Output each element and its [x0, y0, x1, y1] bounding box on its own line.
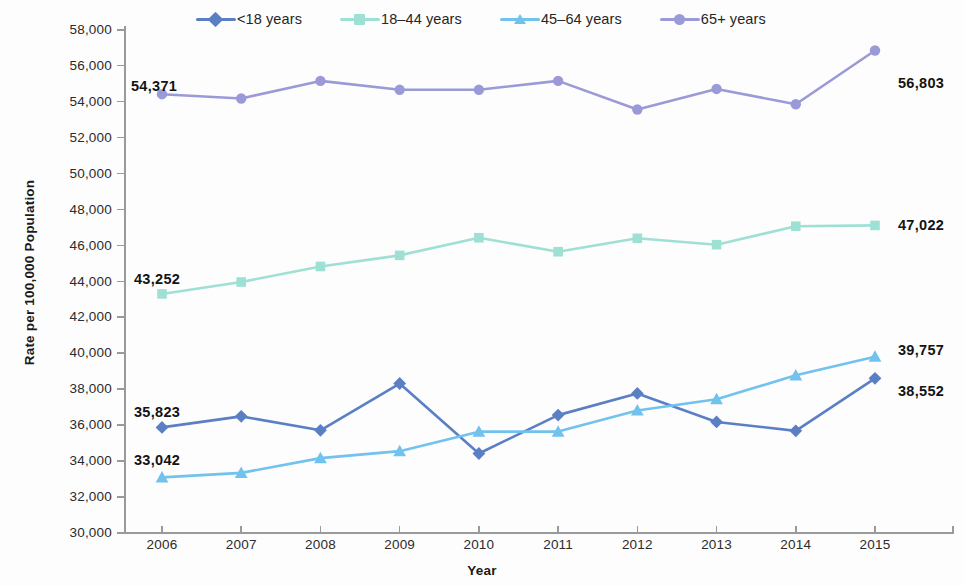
x-tick-mark [478, 526, 480, 534]
y-tick-label: 42,000 [40, 309, 112, 324]
y-tick-mark [117, 29, 125, 31]
series-start-value-label: 43,252 [134, 271, 180, 287]
y-tick-mark [117, 209, 125, 211]
y-tick-mark [117, 173, 125, 175]
y-tick-mark [117, 352, 125, 354]
legend-label-3: 45–64 years [541, 11, 622, 27]
y-tick-mark [117, 137, 125, 139]
data-point-marker [553, 76, 563, 86]
x-tick-label: 2007 [204, 537, 278, 552]
legend-swatch-square-icon [340, 12, 380, 26]
data-point-marker [789, 424, 802, 437]
y-tick-label: 44,000 [40, 273, 112, 288]
chart-legend: <18 years18–44 years45–64 years65+ years [196, 7, 836, 31]
data-point-marker [631, 387, 644, 400]
data-point-marker [393, 445, 406, 457]
legend-item-3[interactable]: 45–64 years [500, 11, 660, 27]
y-tick-label: 30,000 [40, 525, 112, 540]
data-point-marker [393, 377, 406, 390]
x-tick-mark [637, 526, 639, 534]
y-tick-mark [117, 316, 125, 318]
x-tick-mark [716, 526, 718, 534]
y-tick-label: 46,000 [40, 237, 112, 252]
y-tick-mark [117, 460, 125, 462]
series-line [162, 51, 875, 110]
data-point-marker [157, 289, 167, 299]
legend-label-4: 65+ years [701, 11, 766, 27]
y-tick-label: 48,000 [40, 201, 112, 216]
series-start-value-label: 35,823 [134, 404, 180, 420]
data-point-marker [394, 85, 404, 95]
data-point-marker [552, 409, 565, 422]
x-axis-line [124, 532, 952, 534]
data-point-marker [474, 233, 484, 243]
data-point-marker [156, 471, 169, 483]
y-tick-mark [117, 424, 125, 426]
x-tick-mark [874, 526, 876, 534]
data-point-marker [316, 262, 326, 272]
series-line [162, 357, 875, 478]
series-line [162, 378, 875, 453]
y-tick-label: 38,000 [40, 381, 112, 396]
data-point-marker [869, 350, 882, 362]
data-point-marker [712, 240, 722, 250]
x-axis-end-tick [952, 526, 954, 534]
legend-item-4[interactable]: 65+ years [660, 11, 766, 27]
data-point-marker [789, 369, 802, 381]
data-point-marker [395, 251, 405, 261]
x-tick-label: 2006 [125, 537, 199, 552]
data-point-marker [633, 234, 643, 244]
data-point-marker [472, 425, 485, 437]
legend-swatch-triangle-icon [500, 12, 540, 26]
y-tick-label: 54,000 [40, 93, 112, 108]
data-point-marker [236, 277, 246, 287]
data-point-marker [235, 410, 248, 423]
series-1 [156, 372, 882, 460]
data-point-marker [236, 93, 246, 103]
y-tick-label: 52,000 [40, 129, 112, 144]
y-tick-mark [117, 496, 125, 498]
legend-label-2: 18–44 years [381, 11, 462, 27]
data-point-marker [791, 99, 801, 109]
series-start-value-label: 33,042 [134, 452, 180, 468]
y-tick-label: 34,000 [40, 453, 112, 468]
data-point-marker [870, 45, 880, 55]
series-3 [156, 350, 882, 482]
x-tick-label: 2011 [521, 537, 595, 552]
y-tick-mark [117, 281, 125, 283]
legend-swatch-circle-icon [660, 12, 700, 26]
x-tick-label: 2015 [838, 537, 912, 552]
data-point-marker [632, 104, 642, 114]
y-tick-label: 50,000 [40, 165, 112, 180]
series-end-value-label: 47,022 [898, 217, 944, 233]
y-tick-mark [117, 245, 125, 247]
y-tick-label: 36,000 [40, 417, 112, 432]
legend-item-1[interactable]: <18 years [196, 11, 340, 27]
data-point-marker [553, 247, 563, 257]
data-point-marker [711, 84, 721, 94]
y-tick-label: 40,000 [40, 345, 112, 360]
data-point-marker [156, 421, 169, 434]
y-axis-title: Rate per 100,000 Population [22, 158, 37, 388]
series-line [162, 225, 875, 294]
x-tick-mark [557, 526, 559, 534]
data-point-marker [791, 221, 801, 231]
series-4 [157, 45, 880, 114]
data-point-marker [552, 425, 565, 437]
series-start-value-label: 54,371 [131, 78, 177, 94]
data-point-marker [710, 416, 723, 429]
legend-item-2[interactable]: 18–44 years [340, 11, 500, 27]
line-chart: <18 years18–44 years45–64 years65+ years… [0, 0, 964, 586]
y-tick-mark [117, 101, 125, 103]
x-tick-label: 2008 [283, 537, 357, 552]
x-tick-label: 2014 [759, 537, 833, 552]
data-point-marker [631, 404, 644, 416]
x-tick-label: 2009 [363, 537, 437, 552]
legend-label-1: <18 years [237, 11, 302, 27]
x-tick-mark [399, 526, 401, 534]
x-tick-label: 2013 [680, 537, 754, 552]
series-end-value-label: 39,757 [898, 342, 944, 358]
data-point-marker [315, 76, 325, 86]
x-tick-mark [320, 526, 322, 534]
y-tick-label: 32,000 [40, 489, 112, 504]
